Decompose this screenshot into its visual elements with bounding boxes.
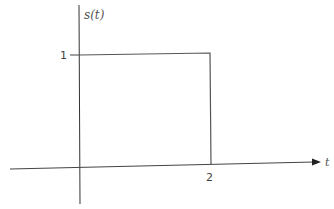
y-axis-label: s(t) (84, 8, 105, 22)
y-axis (79, 5, 80, 204)
x-axis (10, 162, 314, 169)
signal-chart: s(t) 1 2 t (0, 0, 334, 209)
y-tick-label-1: 1 (60, 49, 67, 62)
x-tick-label-2: 2 (206, 171, 213, 184)
x-axis-label: t (325, 156, 330, 169)
x-axis-arrow-icon (312, 159, 321, 166)
signal-pulse (79, 53, 211, 165)
